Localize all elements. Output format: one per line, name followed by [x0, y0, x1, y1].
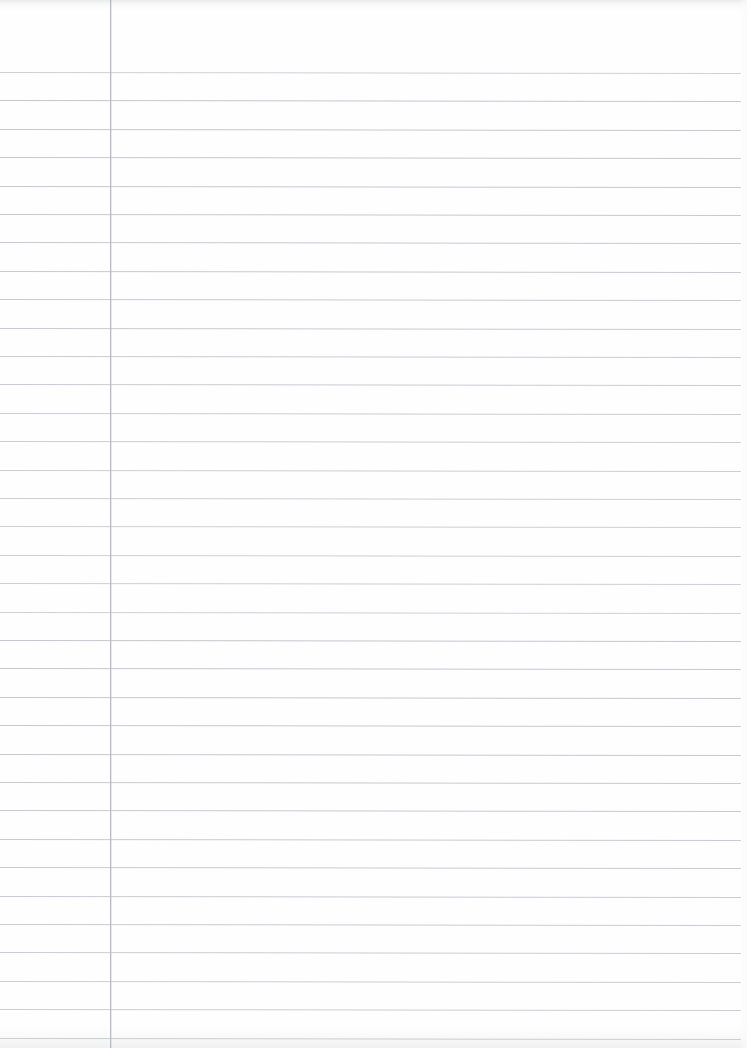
paper-surface [0, 0, 747, 1048]
notebook-page [0, 0, 747, 1048]
